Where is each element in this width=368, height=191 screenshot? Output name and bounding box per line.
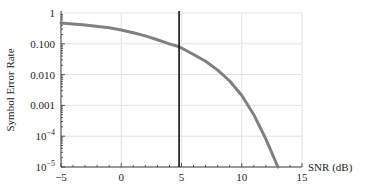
y-tick-label: 0.100 (30, 38, 55, 50)
x-tick-label: 10 (236, 171, 248, 183)
y-axis-label: Symbol Error Rate (4, 48, 16, 131)
y-tick-label: 0.010 (30, 69, 55, 81)
ser-curve (61, 23, 278, 167)
chart: −505101510−510−40.0010.0100.1001SNR (dB)… (0, 0, 368, 191)
y-tick-label: 0.001 (30, 99, 55, 111)
x-tick-label: 15 (297, 171, 309, 183)
x-tick-label: 5 (179, 171, 185, 183)
x-tick-label: 0 (119, 171, 125, 183)
y-tick-label: 10−5 (35, 159, 55, 173)
x-tick-label: −5 (55, 171, 67, 183)
y-tick-label: 10−4 (35, 128, 55, 142)
y-tick-label: 1 (50, 7, 56, 19)
x-axis-label: SNR (dB) (308, 161, 353, 174)
